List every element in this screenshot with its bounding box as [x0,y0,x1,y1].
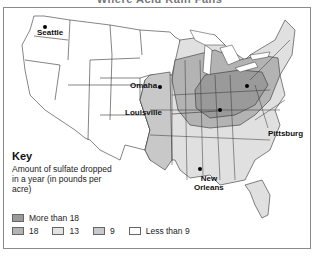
city-label-new-orleans: New Orleans [194,174,224,192]
swatch-18 [12,227,24,235]
legend: More than 18 18 13 9 Less than 9 [12,211,204,237]
legend-label: Less than 9 [146,226,190,236]
legend-label: 9 [110,226,115,236]
city-label-louisville: Louisville [125,108,162,117]
swatch-13 [52,227,64,235]
pittsburg-dot [245,84,249,88]
legend-item-less-than-9: Less than 9 [129,226,190,236]
legend-label: More than 18 [29,213,79,223]
legend-item-13: 13 [52,226,78,236]
new-orleans-dot [198,167,202,171]
city-label-pittsburg: Pittsburg [268,129,303,138]
city-label-seattle: Seattle [37,28,63,37]
swatch-more-than-18 [12,214,24,222]
swatch-9 [93,227,105,235]
florida [245,180,270,218]
legend-row-1: More than 18 [12,211,204,224]
legend-label: 18 [29,226,38,236]
city-label-omaha: Omaha [130,81,157,90]
legend-item-more-than-18: More than 18 [12,213,79,223]
swatch-less-than-9 [129,227,141,235]
omaha-dot [158,85,162,89]
new-orleans-line2: Orleans [194,183,224,192]
louisville-dot [218,108,222,112]
legend-item-9: 9 [93,226,115,236]
legend-label: 13 [69,226,78,236]
map-key: Key Amount of sulfate dropped in a year … [12,150,112,194]
key-description: Amount of sulfate dropped in a year (in … [12,164,112,194]
key-title: Key [12,150,112,162]
legend-item-18: 18 [12,226,38,236]
new-orleans-line1: New [194,174,224,183]
legend-row-2: 18 13 9 Less than 9 [12,224,204,237]
